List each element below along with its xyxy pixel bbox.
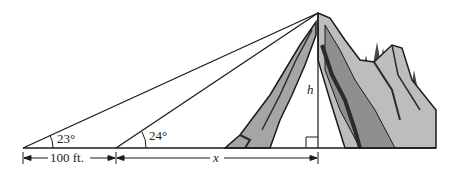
mountain-elevation-diagram: h 23° 24° 100 ft. x bbox=[0, 0, 459, 172]
angle-arc-near bbox=[142, 132, 146, 148]
height-label: h bbox=[307, 82, 314, 97]
angle-far-label: 23° bbox=[57, 131, 75, 146]
angle-arc-far bbox=[50, 135, 53, 148]
distance-x-label: x bbox=[212, 150, 219, 165]
angle-near-label: 24° bbox=[149, 128, 167, 143]
mountain bbox=[225, 13, 436, 148]
distance-100ft-label: 100 ft. bbox=[50, 150, 84, 165]
right-angle-marker bbox=[306, 137, 318, 148]
